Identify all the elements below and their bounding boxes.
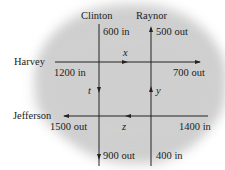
jefferson-in-flow: 1400 in: [179, 121, 211, 133]
clinton-street-label: Clinton: [81, 10, 113, 22]
variable-t: t: [88, 85, 91, 97]
clinton-out-arrow-icon: [97, 154, 101, 160]
harvey-out-flow: 700 out: [173, 67, 205, 79]
clinton-in-flow: 600 in: [103, 26, 130, 38]
harvey-street-label: Harvey: [14, 56, 45, 68]
jefferson-street-label: Jefferson: [13, 110, 51, 122]
variable-y: y: [156, 85, 161, 97]
harvey-in-flow: 1200 in: [54, 67, 86, 79]
raynor-out-flow: 500 out: [156, 26, 188, 38]
x-flow-arrow-icon: [122, 60, 128, 64]
harvey-out-arrow-icon: [195, 60, 201, 64]
variable-x: x: [123, 47, 128, 59]
z-flow-arrow-icon: [125, 114, 131, 118]
t-flow-arrow-icon: [97, 87, 101, 93]
y-flow-arrow-icon: [149, 86, 153, 92]
clinton-out-flow: 900 out: [103, 150, 135, 162]
variable-z: z: [122, 121, 126, 133]
raynor-out-arrow-icon: [149, 26, 153, 32]
raynor-in-flow: 400 in: [156, 150, 183, 162]
raynor-street-label: Raynor: [136, 10, 167, 22]
jefferson-out-arrow-icon: [63, 114, 69, 118]
jefferson-out-flow: 1500 out: [50, 121, 87, 133]
